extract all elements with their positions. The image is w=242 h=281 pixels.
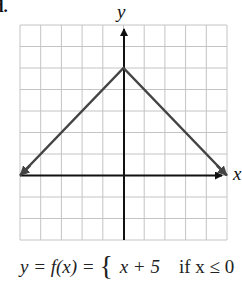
formula-case1-cond: if x ≤ 0 xyxy=(179,256,234,277)
formula-case1-expr: x + 5 xyxy=(120,256,160,277)
brace: { xyxy=(99,250,112,281)
formula-lhs: y = f(x) = xyxy=(20,256,95,277)
left-arrow xyxy=(21,166,30,175)
right-arrow xyxy=(217,166,226,175)
piecewise-formula: y = f(x) = { x + 5 if x ≤ 0 xyxy=(20,248,234,280)
